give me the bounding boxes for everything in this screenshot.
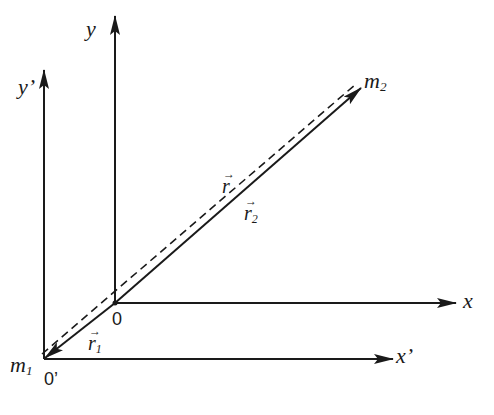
vector-r1 bbox=[45, 303, 115, 358]
vector-arrow-icon: → bbox=[89, 325, 100, 337]
x-prime-axis-label: x’ bbox=[396, 345, 413, 367]
vector-r-label: →r bbox=[222, 176, 230, 196]
origin-label: 0 bbox=[112, 310, 122, 328]
y-axis-label: y bbox=[86, 18, 96, 40]
vector-arrow-icon: → bbox=[223, 168, 234, 180]
diagram-canvas: y y’ x x’ 0 0’ m1 m2 →r →r2 →r1 bbox=[0, 0, 494, 415]
vector-r2-label: →r2 bbox=[244, 203, 258, 225]
mass-m2-label: m2 bbox=[364, 70, 386, 94]
r2-subscript: 2 bbox=[252, 212, 258, 226]
m1-base: m bbox=[10, 352, 26, 377]
y-prime-axis-label: y’ bbox=[18, 76, 35, 98]
vector-r-dashed bbox=[42, 84, 356, 354]
origin-point bbox=[113, 301, 118, 306]
m2-base: m bbox=[364, 68, 380, 93]
origin-prime-label: 0’ bbox=[44, 370, 58, 388]
mass-m1-label: m1 bbox=[10, 354, 32, 378]
x-axis-label: x bbox=[463, 290, 473, 312]
vector-r2 bbox=[115, 88, 361, 303]
r1-subscript: 1 bbox=[96, 342, 102, 356]
m1-subscript: 1 bbox=[26, 363, 33, 378]
vector-r1-label: →r1 bbox=[88, 333, 102, 355]
vector-arrow-icon: → bbox=[245, 195, 256, 207]
m2-subscript: 2 bbox=[380, 79, 387, 94]
